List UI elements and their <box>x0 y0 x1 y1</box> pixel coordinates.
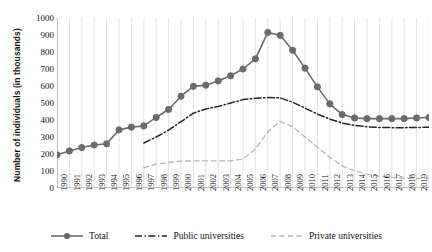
y-tick-label: 800 <box>20 48 54 57</box>
y-tick-label: 500 <box>20 99 54 108</box>
data-point <box>265 29 271 35</box>
data-point <box>389 116 395 122</box>
legend-item-total[interactable]: Total <box>50 231 108 241</box>
x-tick-label: 1993 <box>98 174 107 191</box>
legend-label: Total <box>89 231 108 241</box>
plot-area <box>57 18 429 188</box>
legend-swatch-icon <box>134 231 168 241</box>
legend-swatch-icon <box>270 231 304 241</box>
x-tick-label: 1995 <box>122 174 131 191</box>
x-tick-label: 2008 <box>284 174 293 191</box>
data-point <box>116 127 122 133</box>
data-point <box>401 116 407 122</box>
y-tick-label: 100 <box>20 167 54 176</box>
data-point <box>352 115 358 121</box>
data-point <box>314 84 320 90</box>
x-tick-label: 2000 <box>184 174 193 191</box>
x-tick-label: 2016 <box>383 174 392 191</box>
data-point <box>128 124 134 130</box>
data-point <box>79 144 85 150</box>
y-tick-label: 900 <box>20 31 54 40</box>
x-tick-label: 2001 <box>197 174 206 191</box>
x-tick-label: 2005 <box>246 174 255 191</box>
chart-figure: Number of individuals (in thousands) 010… <box>0 0 432 252</box>
data-point <box>240 66 246 72</box>
data-point <box>203 82 209 88</box>
legend-item-private-universities[interactable]: Private universities <box>270 231 382 241</box>
data-point <box>414 115 420 121</box>
x-tick-label: 1992 <box>85 174 94 191</box>
series-line-public-universities <box>144 98 429 143</box>
grid-lines <box>57 18 429 188</box>
data-point <box>141 123 147 129</box>
data-point <box>228 73 234 79</box>
x-tick-label: 2007 <box>271 174 280 191</box>
y-tick-label: 1000 <box>20 14 54 23</box>
legend-swatch-icon <box>50 231 84 241</box>
data-point <box>364 116 370 122</box>
x-tick-label: 2004 <box>234 174 243 191</box>
data-point <box>290 47 296 53</box>
x-tick-label: 1990 <box>60 174 69 191</box>
data-point <box>66 148 72 154</box>
legend-label: Public universities <box>173 231 243 241</box>
x-tick-label: 2013 <box>346 174 355 191</box>
y-tick-label: 600 <box>20 82 54 91</box>
plot-svg <box>57 18 429 188</box>
data-point <box>190 83 196 89</box>
x-tick-label: 2014 <box>358 174 367 191</box>
x-tick-label: 1991 <box>73 174 82 191</box>
x-tick-label: 2009 <box>296 174 305 191</box>
series-line-private-universities <box>144 121 429 178</box>
x-tick-label: 1998 <box>160 174 169 191</box>
x-tick-label: 2011 <box>321 174 330 191</box>
data-point <box>91 142 97 148</box>
y-tick-label: 300 <box>20 133 54 142</box>
y-axis-tick-labels: 01002003004005006007008009001000 <box>14 18 54 188</box>
legend-item-public-universities[interactable]: Public universities <box>134 231 243 241</box>
x-tick-label: 1996 <box>135 174 144 191</box>
x-tick-label: 2010 <box>308 174 317 191</box>
data-point <box>376 116 382 122</box>
x-axis-tick-labels: 1990199119921993199419951996199719981999… <box>57 190 429 220</box>
data-point <box>426 114 429 120</box>
data-point <box>166 106 172 112</box>
x-tick-label: 1999 <box>172 174 181 191</box>
data-point <box>252 56 258 62</box>
x-tick-label: 2003 <box>222 174 231 191</box>
data-point <box>215 78 221 84</box>
x-tick-label: 2015 <box>370 174 379 191</box>
data-point <box>339 111 345 117</box>
data-point <box>178 93 184 99</box>
x-tick-label: 2019 <box>420 174 429 191</box>
legend-label: Private universities <box>309 231 382 241</box>
y-tick-label: 0 <box>20 184 54 193</box>
data-point <box>277 32 283 38</box>
data-point <box>104 141 110 147</box>
x-tick-label: 2017 <box>395 174 404 191</box>
data-point <box>302 65 308 71</box>
x-tick-label: 2002 <box>209 174 218 191</box>
y-tick-label: 400 <box>20 116 54 125</box>
chart-legend: TotalPublic universitiesPrivate universi… <box>0 226 432 246</box>
x-tick-label: 2012 <box>333 174 342 191</box>
x-tick-label: 2018 <box>408 174 417 191</box>
y-tick-label: 700 <box>20 65 54 74</box>
x-tick-label: 1997 <box>147 174 156 191</box>
data-point <box>153 114 159 120</box>
x-tick-label: 2006 <box>259 174 268 191</box>
data-point <box>327 101 333 107</box>
y-tick-label: 200 <box>20 150 54 159</box>
data-point <box>57 152 60 158</box>
x-tick-label: 1994 <box>110 174 119 191</box>
